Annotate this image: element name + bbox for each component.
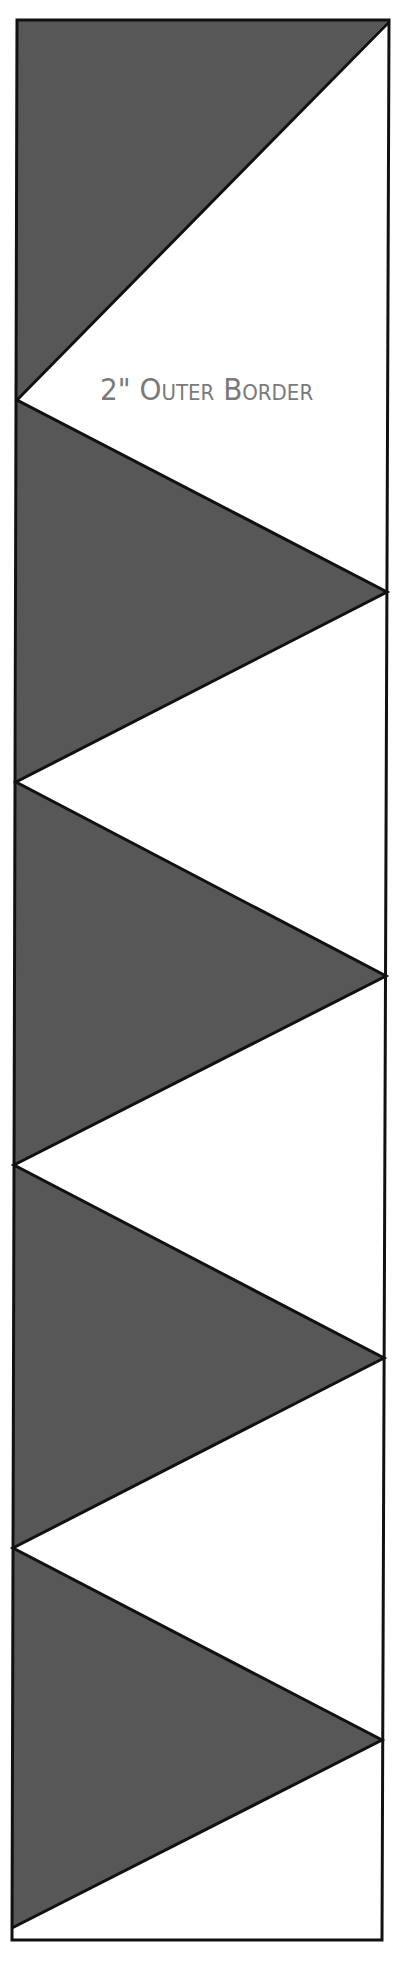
dark-triangle-2 bbox=[14, 782, 386, 1165]
dark-triangle-1 bbox=[16, 400, 387, 782]
outer-border-label: 2" Outer Border bbox=[100, 372, 343, 406]
dark-triangle-4 bbox=[12, 1548, 382, 1928]
outer-border-diagram bbox=[0, 0, 406, 1963]
dark-triangle-3 bbox=[13, 1165, 384, 1548]
